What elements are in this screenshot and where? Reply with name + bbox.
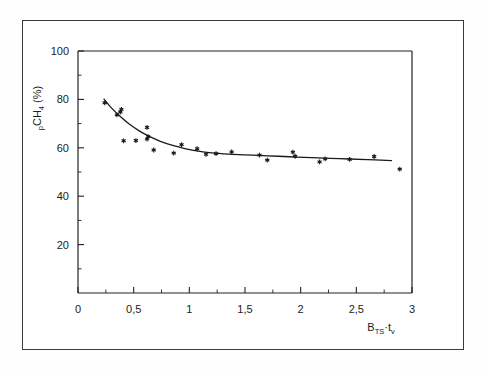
data-point xyxy=(323,157,327,162)
data-point xyxy=(172,151,176,156)
x-tick-label: 2,5 xyxy=(349,303,364,315)
y-axis-title-text: pCH4 (%) xyxy=(31,86,46,130)
y-tick-label: 40 xyxy=(57,190,69,202)
x-tick-label: 1,5 xyxy=(237,303,252,315)
tick-marks-group xyxy=(78,51,412,293)
x-tick-label: 0,5 xyxy=(126,303,141,315)
y-tick-label: 80 xyxy=(57,93,69,105)
data-point xyxy=(293,154,297,159)
x-axis-title-text: BTS·tv xyxy=(367,321,395,336)
data-point xyxy=(265,158,269,163)
y-axis-title: pCH4 (%) xyxy=(31,86,46,130)
data-point xyxy=(398,167,402,172)
data-point xyxy=(372,154,376,159)
data-point xyxy=(152,148,156,153)
y-tick-label: 100 xyxy=(51,45,69,57)
x-tick-label: 2 xyxy=(298,303,304,315)
data-point xyxy=(145,125,149,130)
data-point xyxy=(318,159,322,164)
x-tick-labels: 00,511,522,53 xyxy=(75,303,415,315)
data-point xyxy=(179,142,183,147)
figure-container: 00,511,522,53 20406080100 BTS·tv pCH4 (%… xyxy=(0,0,486,371)
data-points-group xyxy=(103,100,402,171)
y-tick-label: 60 xyxy=(57,142,69,154)
data-point xyxy=(134,138,138,143)
x-axis-title: BTS·tv xyxy=(367,321,395,336)
data-point xyxy=(122,138,126,143)
data-point xyxy=(291,150,295,155)
y-tick-label: 20 xyxy=(57,239,69,251)
x-tick-label: 0 xyxy=(75,303,81,315)
axes-group xyxy=(78,51,412,293)
y-tick-labels: 20406080100 xyxy=(51,45,69,251)
chart-plot: 00,511,522,53 20406080100 BTS·tv pCH4 (%… xyxy=(0,0,486,371)
x-tick-label: 1 xyxy=(186,303,192,315)
x-tick-label: 3 xyxy=(409,303,415,315)
